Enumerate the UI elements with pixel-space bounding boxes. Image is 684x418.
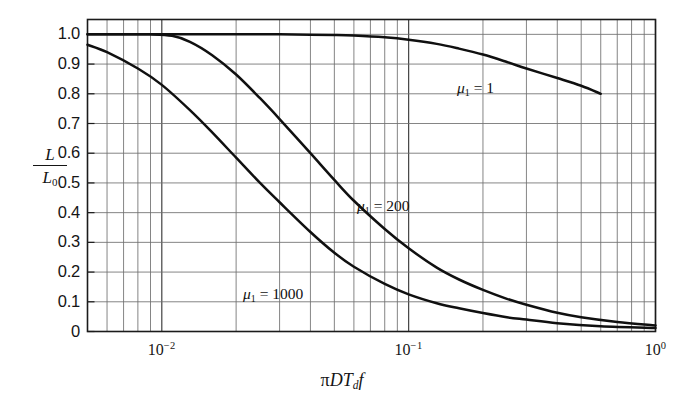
horizontal-gridlines: [88, 34, 656, 301]
y-tick-label: 0.5: [28, 173, 80, 192]
y-tick-label: 0.6: [28, 143, 80, 162]
x-axis-label-f: f: [358, 370, 363, 390]
curve-label-mu1-1000: μ1 = 1000: [243, 285, 303, 304]
y-tick-label: 0.2: [28, 262, 80, 281]
curve-label-mu1-1: μ1 = 1: [457, 79, 494, 98]
plot-canvas: [0, 0, 684, 418]
y-tick-label: 0.3: [28, 232, 80, 251]
minor-gridlines: [88, 20, 645, 332]
axis-ticks: [88, 34, 95, 331]
data-curve-2: [88, 34, 656, 325]
x-axis-label-D: D: [330, 370, 343, 390]
y-tick-label: 0.7: [28, 114, 80, 133]
y-tick-label: 0.1: [28, 292, 80, 311]
x-tick-label: 10−2: [136, 340, 188, 359]
x-tick-label: 10−1: [383, 340, 435, 359]
y-tick-label: 1.0: [28, 24, 80, 43]
x-tick-label: 100: [630, 340, 682, 359]
y-tick-label: 0.9: [28, 54, 80, 73]
data-curve-3: [88, 45, 656, 328]
y-axis-label-fraction-bar: [33, 165, 67, 166]
x-axis-label-T: T: [343, 370, 353, 390]
x-axis-label: πDTdf: [0, 370, 684, 391]
curve-label-mu1-200: μ1 = 200: [357, 197, 410, 216]
semilog-decay-chart: L L0 πDTdf 00.10.20.30.40.50.60.70.80.91…: [0, 0, 684, 418]
y-tick-label: 0: [28, 322, 80, 341]
x-axis-label-pi: π: [321, 370, 330, 390]
y-tick-label: 0.4: [28, 203, 80, 222]
y-tick-label: 0.8: [28, 84, 80, 103]
data-curves: [88, 34, 656, 328]
plot-frame: [88, 20, 656, 332]
